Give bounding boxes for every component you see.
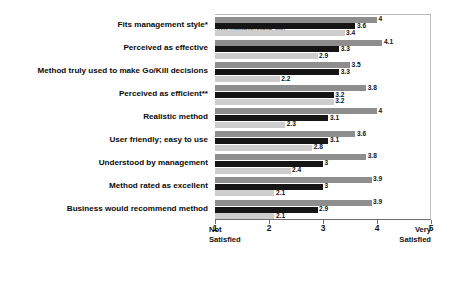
axis-tick-label: 2: [259, 223, 279, 233]
bar-value-label: 3.6: [357, 130, 366, 138]
bar-value-label: 2.9: [319, 52, 328, 60]
bar-row: 2.9: [215, 207, 431, 213]
bar-top-performers: [215, 177, 372, 183]
bar-value-label: 3.5: [352, 61, 361, 69]
bar-row: 3.4: [215, 30, 431, 36]
bar-all-businesses: [215, 115, 328, 121]
bar-value-label: 3.6: [357, 22, 366, 30]
bar-top-performers: [215, 200, 372, 206]
bar-row: 2.9: [215, 53, 431, 59]
category-label: Method rated as excellent: [2, 181, 208, 190]
satisfaction-bar-chart: Fits management style*Perceived as effec…: [0, 0, 467, 284]
bar-value-label: 4.1: [384, 38, 393, 46]
category-label: Perceived as effective: [2, 43, 208, 52]
bar-value-label: 3.9: [373, 175, 382, 183]
bar-all-businesses: [215, 92, 334, 98]
axis-tick-label: 3: [313, 223, 333, 233]
bar-row: 4.1: [215, 40, 431, 46]
bar-top-performers: [215, 62, 350, 68]
bar-poor-performers: [215, 53, 318, 59]
bar-value-label: 3: [325, 182, 329, 190]
bar-row: 3.8: [215, 85, 431, 91]
bar-row: 2.4: [215, 168, 431, 174]
bar-poor-performers: [215, 190, 274, 196]
bar-top-performers: [215, 17, 377, 23]
bar-row: 2.1: [215, 213, 431, 219]
category-label: Fits management style*: [2, 20, 208, 29]
bar-value-label: 2.9: [319, 205, 328, 213]
bar-poor-performers: [215, 76, 280, 82]
bar-row: 2.2: [215, 76, 431, 82]
bar-top-performers: [215, 40, 382, 46]
bar-value-label: 3.4: [346, 29, 355, 37]
axis-tick-label: 5: [421, 223, 441, 233]
bar-poor-performers: [215, 168, 291, 174]
bar-value-label: 2.3: [287, 120, 296, 128]
bar-top-performers: [215, 108, 377, 114]
bar-value-label: 2.1: [276, 189, 285, 197]
bar-row: 3.2: [215, 99, 431, 105]
category-axis: Fits management style*Perceived as effec…: [0, 14, 212, 220]
bar-all-businesses: [215, 138, 328, 144]
bar-value-label: 3.8: [368, 152, 377, 160]
bar-poor-performers: [215, 30, 345, 36]
bar-row: 3.8: [215, 154, 431, 160]
bar-value-label: 3.9: [373, 198, 382, 206]
category-label: Understood by management: [2, 158, 208, 167]
category-label: Method truly used to make Go/Kill decisi…: [2, 66, 208, 75]
bar-poor-performers: [215, 122, 285, 128]
category-label: Business would recommend method: [2, 204, 208, 213]
bar-all-businesses: [215, 23, 355, 29]
bar-row: 3.6: [215, 131, 431, 137]
bar-value-label: 4: [379, 107, 383, 115]
bar-row: 4: [215, 108, 431, 114]
bar-all-businesses: [215, 69, 339, 75]
bar-row: 2.8: [215, 145, 431, 151]
bar-value-label: 3: [325, 159, 329, 167]
axis-tick-label: 1: [205, 223, 225, 233]
bar-value-label: 3.1: [330, 114, 339, 122]
bar-row: 3: [215, 184, 431, 190]
bar-row: 3.1: [215, 138, 431, 144]
bar-row: 2.3: [215, 122, 431, 128]
bar-value-label: 3.8: [368, 84, 377, 92]
bar-value-label: 3.3: [341, 68, 350, 76]
axis-tick-label: 4: [367, 223, 387, 233]
bar-poor-performers: [215, 99, 334, 105]
bar-row: 3: [215, 161, 431, 167]
bar-all-businesses: [215, 184, 323, 190]
bar-value-label: 4: [379, 15, 383, 23]
bar-row: 3.3: [215, 69, 431, 75]
bar-value-label: 2.2: [281, 75, 290, 83]
bar-row: 3.6: [215, 23, 431, 29]
bar-value-label: 3.3: [341, 45, 350, 53]
bar-poor-performers: [215, 145, 312, 151]
bar-value-label: 3.2: [335, 97, 344, 105]
plot-area: Top Performers(top 20%)All BusinessesPoo…: [215, 14, 431, 220]
bar-top-performers: [215, 154, 366, 160]
bar-value-label: 3.1: [330, 136, 339, 144]
bar-all-businesses: [215, 207, 318, 213]
bar-value-label: 2.4: [292, 166, 301, 174]
category-label: Realistic method: [2, 112, 208, 121]
bar-row: 3.1: [215, 115, 431, 121]
bar-value-label: 2.1: [276, 212, 285, 220]
bar-value-label: 2.8: [314, 143, 323, 151]
bar-poor-performers: [215, 213, 274, 219]
bar-row: 3.9: [215, 177, 431, 183]
bar-row: 3.5: [215, 62, 431, 68]
category-label: User friendly; easy to use: [2, 135, 208, 144]
value-axis: Not Satisfied Very Satisfied 12345: [215, 220, 431, 234]
bar-all-businesses: [215, 161, 323, 167]
category-label: Perceived as efficient**: [2, 89, 208, 98]
bar-row: 2.1: [215, 190, 431, 196]
bar-row: 4: [215, 17, 431, 23]
bar-row: 3.2: [215, 92, 431, 98]
